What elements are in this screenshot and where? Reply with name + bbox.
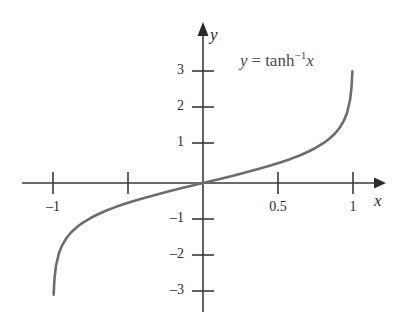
- y-tick-label-minus-2: –2: [156, 247, 184, 261]
- y-tick-label-3: 3: [162, 63, 184, 77]
- x-tick-label-0-5: 0.5: [260, 200, 296, 214]
- y-tick-label-minus-3: –3: [156, 283, 184, 297]
- equation-argument: x: [306, 51, 314, 70]
- y-axis-name: y: [210, 26, 218, 43]
- y-tick-label-1: 1: [162, 135, 184, 149]
- x-tick-label-1: 1: [343, 200, 363, 214]
- plot-canvas: [0, 0, 395, 327]
- equation-function-name: tanh: [265, 51, 294, 70]
- equation-exponent: −1: [294, 49, 306, 61]
- x-axis-arrowhead: [374, 178, 386, 189]
- equation-annotation: y=tanh−1x: [240, 50, 314, 69]
- y-axis-arrowhead: [198, 22, 209, 36]
- y-tick-label-2: 2: [162, 99, 184, 113]
- x-tick-label-minus-1: –1: [38, 200, 68, 214]
- equation-lhs: y: [240, 51, 248, 70]
- x-axis-name: x: [374, 192, 382, 209]
- equation-equals-sign: =: [248, 51, 266, 70]
- y-tick-label-minus-1: –1: [156, 211, 184, 225]
- figure-tanh-inverse-plot: 3 2 1 –1 –2 –3 –1 0.5 1 y x y=tanh−1x: [0, 0, 395, 327]
